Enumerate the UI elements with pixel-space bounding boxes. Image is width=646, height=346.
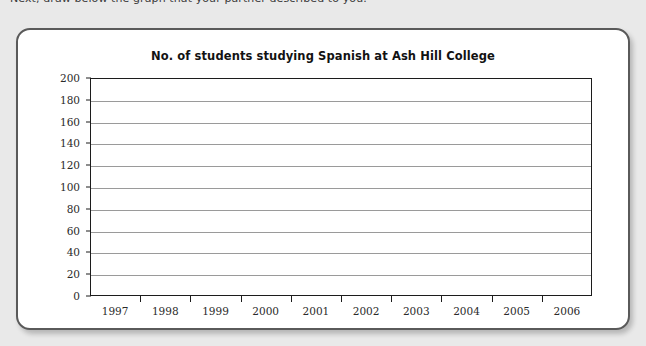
plot-area [90, 78, 592, 296]
x-axis-tick [291, 296, 292, 302]
y-axis-tick [86, 78, 91, 79]
x-axis-label: 1999 [202, 305, 229, 317]
y-axis-tick [86, 121, 91, 122]
x-axis-tick [140, 296, 141, 302]
y-axis-tick [86, 165, 91, 166]
gridline [91, 275, 591, 276]
y-axis-tick [86, 230, 91, 231]
y-axis-label: 140 [40, 137, 80, 149]
y-axis-tick [86, 274, 91, 275]
gridline [91, 123, 591, 124]
y-axis-tick [86, 187, 91, 188]
y-axis-tick [86, 252, 91, 253]
x-axis-label: 2006 [554, 305, 581, 317]
x-axis-tick [190, 296, 191, 302]
y-axis-label: 180 [40, 94, 80, 106]
y-axis-tick [86, 208, 91, 209]
y-axis-label: 60 [40, 225, 80, 237]
x-axis-tick [542, 296, 543, 302]
y-axis-tick [86, 296, 91, 297]
y-axis-label: 160 [40, 116, 80, 128]
graph-worksheet-card: No. of students studying Spanish at Ash … [16, 28, 630, 330]
gridline [91, 232, 591, 233]
gridline [91, 188, 591, 189]
x-axis-label: 2005 [503, 305, 530, 317]
x-axis-tick [492, 296, 493, 302]
x-axis-label: 2001 [303, 305, 330, 317]
y-axis-label: 80 [40, 203, 80, 215]
gridline [91, 166, 591, 167]
x-axis-tick [241, 296, 242, 302]
x-axis-tick [391, 296, 392, 302]
y-axis-label: 200 [40, 72, 80, 84]
instruction-text: Next, draw below the graph that your par… [10, 0, 610, 5]
x-axis-label: 2002 [353, 305, 380, 317]
gridline [91, 253, 591, 254]
x-axis-tick [441, 296, 442, 302]
x-axis-label: 2004 [453, 305, 480, 317]
x-axis-tick [341, 296, 342, 302]
gridline [91, 210, 591, 211]
y-axis-label: 120 [40, 159, 80, 171]
y-axis-label: 0 [40, 290, 80, 302]
y-axis-label: 20 [40, 268, 80, 280]
x-axis-label: 1998 [152, 305, 179, 317]
x-axis-label: 1997 [102, 305, 129, 317]
x-axis-label: 2000 [252, 305, 279, 317]
chart-container: No. of students studying Spanish at Ash … [18, 30, 628, 328]
gridline [91, 101, 591, 102]
x-axis-label: 2003 [403, 305, 430, 317]
y-axis-tick [86, 99, 91, 100]
y-axis-label: 100 [40, 181, 80, 193]
y-axis-tick [86, 143, 91, 144]
chart-title: No. of students studying Spanish at Ash … [18, 49, 628, 63]
gridline [91, 144, 591, 145]
y-axis-label: 40 [40, 246, 80, 258]
